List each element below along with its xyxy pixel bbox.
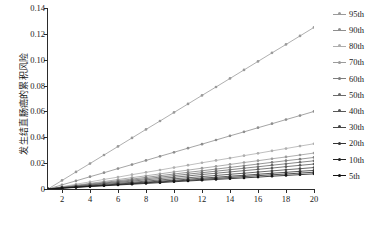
x-tick-label: 2 bbox=[60, 194, 64, 204]
data-point bbox=[103, 171, 106, 174]
legend: 95th90th80th70th60th50th40th30th20th10th… bbox=[333, 6, 379, 184]
legend-item-20th[interactable]: 20th bbox=[333, 136, 379, 152]
legend-item-40th[interactable]: 40th bbox=[333, 103, 379, 119]
legend-item-80th[interactable]: 80th bbox=[333, 38, 379, 54]
data-point bbox=[313, 166, 314, 169]
data-point bbox=[299, 167, 302, 170]
data-point bbox=[257, 126, 260, 129]
y-tick-label: 0.08 bbox=[30, 81, 45, 91]
data-point bbox=[173, 180, 176, 183]
y-tick-label: 0.10 bbox=[30, 55, 45, 65]
x-tick-label: 20 bbox=[310, 194, 319, 204]
data-point bbox=[201, 143, 204, 146]
data-point bbox=[131, 137, 134, 140]
y-tick-label: 0.04 bbox=[30, 132, 45, 142]
legend-item-90th[interactable]: 90th bbox=[333, 22, 379, 38]
legend-marker-icon bbox=[333, 171, 346, 180]
data-point bbox=[229, 157, 232, 160]
data-point bbox=[173, 151, 176, 154]
legend-marker-icon bbox=[333, 26, 346, 35]
data-point bbox=[271, 150, 274, 153]
data-point bbox=[229, 177, 232, 180]
legend-item-50th[interactable]: 50th bbox=[333, 87, 379, 103]
data-point bbox=[159, 169, 162, 172]
data-point bbox=[243, 161, 246, 164]
data-point bbox=[145, 159, 148, 162]
series-layer bbox=[48, 8, 314, 189]
data-point bbox=[257, 159, 260, 162]
x-tick-mark bbox=[314, 189, 315, 193]
legend-item-95th[interactable]: 95th bbox=[333, 6, 379, 22]
legend-label: 60th bbox=[349, 75, 364, 84]
plot-area: 00.020.040.060.080.100.120.14 2468101214… bbox=[48, 8, 314, 189]
legend-label: 70th bbox=[349, 58, 364, 67]
data-point bbox=[285, 168, 288, 171]
legend-item-5th[interactable]: 5th bbox=[333, 168, 379, 184]
data-point bbox=[285, 118, 288, 121]
data-point bbox=[285, 159, 288, 162]
data-point bbox=[271, 170, 274, 173]
x-tick-mark bbox=[90, 189, 91, 193]
series-95th bbox=[48, 26, 314, 189]
data-point bbox=[271, 52, 274, 55]
data-point bbox=[215, 139, 218, 142]
data-point bbox=[201, 94, 204, 97]
legend-label: 20th bbox=[349, 139, 364, 148]
data-point bbox=[257, 165, 260, 168]
x-tick-label: 16 bbox=[254, 194, 263, 204]
data-point bbox=[271, 167, 274, 170]
legend-label: 95th bbox=[349, 10, 364, 19]
data-point bbox=[285, 174, 288, 177]
legend-marker-icon bbox=[333, 74, 346, 83]
data-point bbox=[313, 156, 314, 159]
data-point bbox=[131, 173, 134, 176]
legend-label: 30th bbox=[349, 123, 364, 132]
data-point bbox=[75, 171, 78, 174]
data-point bbox=[271, 164, 274, 167]
data-point bbox=[89, 175, 92, 178]
data-point bbox=[299, 161, 302, 164]
legend-marker-icon bbox=[333, 155, 346, 164]
legend-item-60th[interactable]: 60th bbox=[333, 71, 379, 87]
series-60th bbox=[48, 156, 314, 189]
legend-item-70th[interactable]: 70th bbox=[333, 55, 379, 71]
data-point bbox=[257, 168, 260, 171]
data-point bbox=[299, 114, 302, 117]
data-point bbox=[215, 165, 218, 168]
x-tick-label: 8 bbox=[144, 194, 148, 204]
x-tick-label: 14 bbox=[226, 194, 235, 204]
legend-marker-icon bbox=[333, 139, 346, 148]
data-point bbox=[257, 163, 260, 166]
legend-marker-icon bbox=[333, 107, 346, 116]
legend-marker-icon bbox=[333, 123, 346, 132]
data-point bbox=[159, 155, 162, 158]
data-point bbox=[215, 86, 218, 89]
data-point bbox=[131, 163, 134, 166]
data-point bbox=[117, 167, 120, 170]
data-point bbox=[187, 147, 190, 150]
y-tick-label: 0.12 bbox=[30, 29, 45, 39]
x-tick-mark bbox=[174, 189, 175, 193]
x-tick-mark bbox=[202, 189, 203, 193]
data-point bbox=[89, 162, 92, 165]
x-tick-mark bbox=[118, 189, 119, 193]
data-point bbox=[187, 103, 190, 106]
data-point bbox=[299, 164, 302, 167]
legend-item-30th[interactable]: 30th bbox=[333, 119, 379, 135]
x-tick-mark bbox=[230, 189, 231, 193]
data-point bbox=[285, 156, 288, 159]
x-tick-label: 6 bbox=[116, 194, 120, 204]
data-point bbox=[215, 159, 218, 162]
x-axis-ticks: 2468101214161820 bbox=[48, 189, 314, 190]
y-tick-label: 0.14 bbox=[30, 3, 45, 13]
x-tick-label: 4 bbox=[88, 194, 92, 204]
data-point bbox=[145, 182, 148, 185]
legend-item-10th[interactable]: 10th bbox=[333, 152, 379, 168]
data-point bbox=[89, 185, 92, 188]
data-point bbox=[173, 111, 176, 114]
legend-label: 40th bbox=[349, 107, 364, 116]
x-tick-label: 12 bbox=[198, 194, 207, 204]
series-line bbox=[48, 164, 314, 189]
data-point bbox=[285, 162, 288, 165]
data-point bbox=[285, 165, 288, 168]
